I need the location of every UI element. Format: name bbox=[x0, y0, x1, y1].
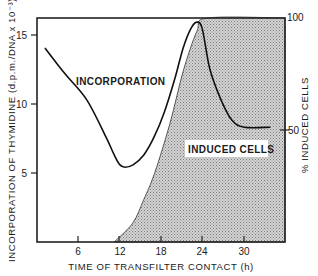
xtick-18: 18 bbox=[155, 246, 167, 257]
x-axis-title: TIME OF TRANSFILTER CONTACT (h) bbox=[68, 261, 254, 272]
ytick-10: 10 bbox=[16, 99, 28, 110]
incorporation-annotation: INCORPORATION bbox=[76, 76, 165, 87]
xtick-6: 6 bbox=[75, 246, 81, 257]
y2-axis-title: % INDUCED CELLS bbox=[299, 77, 310, 173]
y-axis-title: INCORPORATION OF THYMIDINE (d.p.m./DNA x… bbox=[6, 0, 17, 262]
ytick-5: 5 bbox=[21, 168, 27, 179]
xtick-12: 12 bbox=[114, 246, 126, 257]
chart: 5 10 15 50 100 6 12 18 24 30 TIME OF TRA… bbox=[0, 0, 318, 276]
xtick-30: 30 bbox=[238, 246, 250, 257]
left-y-ticks bbox=[31, 35, 37, 173]
y2tick-50: 50 bbox=[288, 125, 300, 136]
induced-cells-area bbox=[114, 17, 285, 242]
ytick-15: 15 bbox=[16, 30, 28, 41]
xtick-24: 24 bbox=[196, 246, 208, 257]
y2tick-100: 100 bbox=[287, 12, 304, 23]
induced-cells-annotation: INDUCED CELLS bbox=[188, 144, 274, 155]
